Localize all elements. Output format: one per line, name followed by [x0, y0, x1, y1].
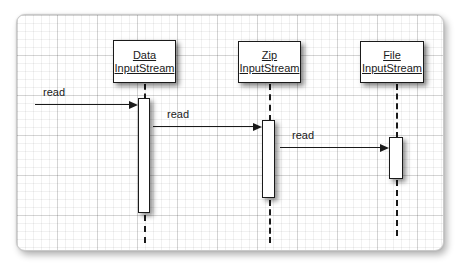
message-arrowhead-icon — [129, 101, 138, 109]
activation-bar-datainputstream — [138, 98, 150, 213]
lifeline-fileinputstream-lower — [396, 180, 398, 236]
lifeline-zipinputstream-upper — [269, 84, 271, 121]
lifeline-datainputstream-lower — [144, 215, 146, 243]
lifeline-datainputstream-upper — [144, 84, 146, 99]
message-line — [280, 147, 380, 148]
object-box-fileinputstream: File InputStream — [360, 41, 424, 83]
message-line — [153, 126, 253, 127]
lifeline-zipinputstream-lower — [269, 200, 271, 243]
object-name-line1: File — [383, 49, 401, 62]
object-name-line1: Data — [133, 49, 156, 62]
lifeline-fileinputstream-upper — [396, 84, 398, 138]
message-label: read — [292, 129, 314, 141]
message-arrowhead-icon — [380, 144, 389, 152]
object-box-datainputstream: Data InputStream — [113, 40, 176, 83]
message-label: read — [43, 86, 65, 98]
activation-bar-zipinputstream — [262, 120, 275, 198]
object-name-line1: Zip — [262, 49, 277, 62]
message-arrowhead-icon — [253, 123, 262, 131]
message-label: read — [167, 108, 189, 120]
object-box-zipinputstream: Zip InputStream — [238, 41, 301, 83]
message-line — [35, 104, 130, 105]
diagram-canvas: read read read Data InputStream Zip Inpu… — [16, 14, 444, 251]
object-name-line2: InputStream — [362, 62, 422, 75]
object-name-line2: InputStream — [240, 62, 300, 75]
activation-bar-fileinputstream — [389, 137, 403, 179]
object-name-line2: InputStream — [115, 62, 175, 75]
